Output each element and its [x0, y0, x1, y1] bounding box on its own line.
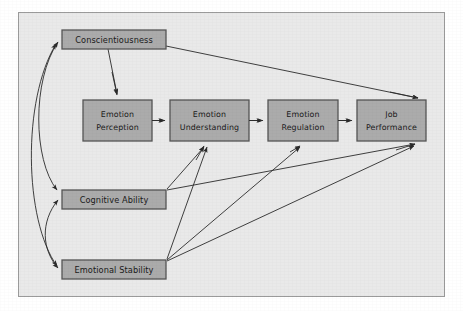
node-emotion-regulation-label-line1: Emotion	[286, 110, 319, 119]
node-cognitive-ability[interactable]: Cognitive Ability	[62, 190, 166, 209]
node-emotion-understanding-label-line2: Understanding	[180, 123, 239, 132]
node-emotion-perception[interactable]: Emotion Perception	[83, 100, 152, 141]
node-emotion-perception-label-line2: Perception	[96, 123, 139, 132]
node-conscientiousness[interactable]: Conscientiousness	[62, 30, 166, 49]
node-emotional-stability[interactable]: Emotional Stability	[62, 260, 166, 279]
diagram-panel	[19, 13, 445, 297]
node-job-performance[interactable]: Job Performance	[357, 100, 426, 141]
node-cognitive-ability-label: Cognitive Ability	[80, 195, 149, 205]
figure-container: Conscientiousness Cognitive Ability Emot…	[0, 0, 463, 311]
node-emotion-understanding-label-line1: Emotion	[193, 110, 226, 119]
node-job-performance-label-line2: Performance	[366, 123, 417, 132]
node-job-performance-label-line1: Job	[384, 110, 397, 119]
node-conscientiousness-label: Conscientiousness	[75, 35, 153, 45]
path-diagram: Conscientiousness Cognitive Ability Emot…	[0, 0, 463, 311]
node-emotion-regulation-label-line2: Regulation	[281, 123, 324, 132]
node-emotional-stability-label: Emotional Stability	[74, 265, 153, 275]
node-emotion-perception-label-line1: Emotion	[101, 110, 134, 119]
node-emotion-understanding[interactable]: Emotion Understanding	[170, 100, 249, 141]
node-emotion-regulation[interactable]: Emotion Regulation	[268, 100, 338, 141]
